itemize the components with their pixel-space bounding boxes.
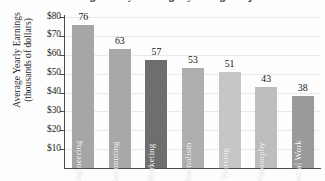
y-tick-label: $70 bbox=[47, 29, 61, 39]
bar-philosophy: Philosophy43 bbox=[255, 87, 277, 168]
bar-journalism: Journalism53 bbox=[182, 68, 204, 168]
y-tick-label: $30 bbox=[47, 105, 61, 115]
bar-category-label: Social Work bbox=[293, 140, 303, 181]
bar-social-work: Social Work38 bbox=[292, 96, 314, 168]
y-axis-title: Average Yearly Earnings (thousands of do… bbox=[6, 0, 40, 132]
bar-category-label: Journalism bbox=[183, 143, 193, 181]
y-tick-label: $40 bbox=[47, 86, 61, 96]
bar-nursing: Nursing51 bbox=[219, 72, 241, 168]
bar-category-label: Philosophy bbox=[256, 142, 266, 181]
bar-value-label: 38 bbox=[298, 82, 308, 93]
gridline bbox=[65, 36, 321, 37]
bar-value-label: 53 bbox=[188, 54, 198, 65]
y-tick-label: $60 bbox=[47, 48, 61, 58]
gridline bbox=[65, 17, 321, 18]
bar-value-label: 43 bbox=[261, 73, 271, 84]
y-tick-label: $80 bbox=[47, 11, 61, 21]
bar-value-label: 51 bbox=[225, 58, 235, 69]
y-tick-label: $10 bbox=[47, 143, 61, 153]
y-tick-label: $20 bbox=[47, 124, 61, 134]
y-axis-title-line2: (thousands of dollars) bbox=[23, 18, 34, 102]
y-tick-label: $50 bbox=[47, 67, 61, 77]
bar-value-label: 63 bbox=[115, 35, 125, 46]
bar-value-label: 57 bbox=[152, 46, 162, 57]
bar-chart: Average Yearly Earnings by College Major… bbox=[0, 0, 325, 181]
bar-accounting: Accounting63 bbox=[109, 49, 131, 168]
bar-category-label: Engineering bbox=[73, 140, 83, 181]
bar-category-label: Marketing bbox=[146, 144, 156, 181]
bar-engineering: Engineering76 bbox=[72, 25, 94, 168]
bar-value-label: 76 bbox=[78, 11, 88, 22]
bar-category-label: Accounting bbox=[110, 141, 120, 181]
chart-title: Average Yearly Earnings by College Major bbox=[0, 0, 325, 5]
bar-category-label: Nursing bbox=[220, 148, 230, 178]
bar-marketing: Marketing57 bbox=[145, 60, 167, 168]
